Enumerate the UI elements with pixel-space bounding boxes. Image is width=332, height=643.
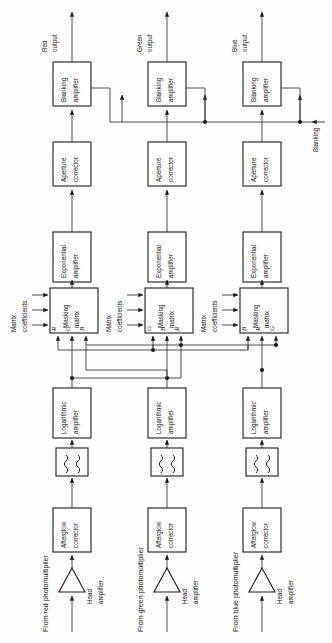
label-exponential-amplifier-blue-l1: Exponential: [250, 245, 258, 278]
blanking-bus: [91, 88, 325, 124]
port-letter-blue-1: B: [240, 326, 248, 331]
label-source-blue: From blue photomultiplier: [232, 551, 240, 632]
label-blanking-amplifier-blue-l2: amplifier: [262, 78, 270, 102]
label-logarithmic-amplifier-green-l2: amplifier: [167, 410, 175, 434]
label-blanking-amplifier-green-l2: amplifier: [167, 78, 175, 102]
label-masking-matrix-red-l1: Masking: [62, 304, 70, 328]
label-masking-matrix-green-l1: Masking: [157, 304, 165, 328]
label-blanking-amplifier-red-l2: amplifier: [72, 78, 80, 102]
label-exponential-amplifier-green-l1: Exponential: [155, 245, 163, 278]
block-delay-filter-blue[interactable]: [246, 448, 278, 476]
label-masking-matrix-blue-l2: matrix: [263, 310, 270, 328]
label-blanking-amplifier-red-l1: Blanking: [60, 77, 68, 102]
label-logarithmic-amplifier-red-l1: Logarithmic: [60, 401, 68, 434]
label-matrix-coefficients-red-l1: Matrix: [10, 314, 17, 332]
label-aperture-corrector-red-l2: corrector: [72, 157, 79, 182]
junction-dot: [203, 120, 207, 124]
output-label-blue: Blue output: [231, 34, 249, 52]
label-aperture-corrector-blue-l2: corrector: [262, 157, 269, 182]
junction-dot: [298, 120, 302, 124]
label-logarithmic-amplifier-green-l1: Logarithmic: [155, 401, 163, 434]
label-exponential-amplifier-red-l1: Exponential: [60, 245, 68, 278]
label-head-amplifier-green-l2: amplifier: [192, 580, 200, 604]
label-afterglow-corrector-red-l2: corrector: [72, 523, 79, 548]
block-head-amplifier-green[interactable]: [154, 568, 180, 592]
label-head-amplifier-blue-l2: amplifier: [287, 580, 295, 604]
svg-text:output: output: [241, 34, 249, 52]
label-head-amplifier-red-l1: Head: [86, 588, 93, 604]
label-exponential-amplifier-green-l2: amplifier: [167, 254, 175, 278]
block-head-amplifier-red[interactable]: [59, 568, 85, 592]
diagram-canvas: Red output Green output Blue output Blan…: [0, 0, 332, 643]
svg-text:output: output: [146, 34, 154, 52]
rgb-distribution-bus: [58, 336, 278, 388]
label-head-amplifier-red-l2: amplifier: [97, 580, 105, 604]
label-masking-matrix-red-l2: matrix: [73, 310, 80, 328]
svg-text:Blue: Blue: [231, 39, 238, 52]
block-head-amplifier-blue[interactable]: [249, 568, 275, 592]
label-masking-matrix-green-l2: matrix: [168, 310, 175, 328]
port-letter-red-1: R: [50, 326, 58, 332]
output-label-red: Red output: [41, 34, 59, 52]
label-exponential-amplifier-blue-l2: amplifier: [262, 254, 270, 278]
output-label-green: Green output: [136, 34, 154, 52]
label-blanking-amplifier-green-l1: Blanking: [155, 77, 163, 102]
label-afterglow-corrector-blue-l1: Afterglow: [250, 521, 258, 548]
label-matrix-coefficients-blue-l1: Matrix: [200, 314, 207, 332]
label-head-amplifier-green-l1: Head: [181, 588, 188, 604]
label-head-amplifier-blue-l1: Head: [276, 588, 283, 604]
port-letter-red-2: G: [64, 326, 72, 331]
port-letter-green-2: B: [159, 326, 167, 331]
block-delay-filter-green[interactable]: [151, 448, 183, 476]
label-matrix-coefficients-green-l2: coefficients: [116, 301, 123, 332]
matrix-coefficient-arrows-green: [127, 295, 143, 325]
label-afterglow-corrector-green-l1: Afterglow: [155, 521, 163, 548]
svg-text:Red: Red: [41, 40, 48, 52]
matrix-coefficient-arrows-blue: [222, 295, 238, 325]
label-matrix-coefficients-blue-l2: coefficients: [211, 301, 218, 332]
port-letter-blue-2: R: [254, 326, 262, 332]
port-letter-red-3: B: [78, 326, 86, 331]
port-letter-blue-3: G: [268, 326, 276, 331]
port-letter-green-1: G: [145, 326, 153, 331]
label-afterglow-corrector-red-l1: Afterglow: [60, 521, 68, 548]
svg-text:output: output: [51, 34, 59, 52]
label-matrix-coefficients-red-l2: coefficients: [21, 301, 28, 332]
label-aperture-corrector-green-l1: Aperture: [155, 157, 163, 182]
label-blanking-amplifier-blue-l1: Blanking: [250, 77, 258, 102]
label-logarithmic-amplifier-blue-l2: amplifier: [262, 410, 270, 434]
block-delay-filter-red[interactable]: [56, 448, 88, 476]
label-afterglow-corrector-blue-l2: corrector: [262, 523, 269, 548]
port-letter-green-3: R: [173, 326, 181, 332]
label-source-green: From green photomultiplier: [137, 547, 145, 632]
label-masking-matrix-blue-l1: Masking: [252, 304, 260, 328]
block-diagram-svg: Red output Green output Blue output Blan…: [0, 0, 332, 643]
matrix-coefficient-arrows-red: [32, 295, 48, 325]
label-aperture-corrector-red-l1: Aperture: [60, 157, 68, 182]
label-aperture-corrector-green-l2: corrector: [167, 157, 174, 182]
label-aperture-corrector-blue-l1: Aperture: [250, 157, 258, 182]
label-matrix-coefficients-green-l1: Matrix: [105, 314, 112, 332]
svg-text:Green: Green: [136, 34, 143, 52]
label-afterglow-corrector-green-l2: corrector: [167, 523, 174, 548]
label-source-red: From red photomultiplier: [42, 554, 50, 632]
label-logarithmic-amplifier-red-l2: amplifier: [72, 410, 80, 434]
label-logarithmic-amplifier-blue-l1: Logarithmic: [250, 401, 258, 434]
label-exponential-amplifier-red-l2: amplifier: [72, 254, 80, 278]
blanking-label: Blanking: [312, 127, 320, 152]
